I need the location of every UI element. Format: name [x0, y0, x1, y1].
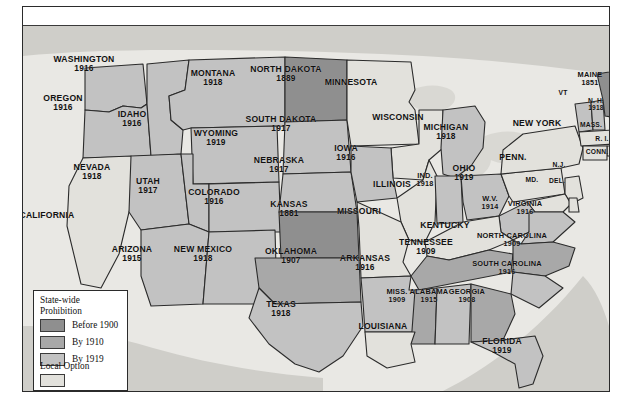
- state-year: 1919: [194, 138, 238, 147]
- state-label-conn: CONN.: [586, 149, 609, 156]
- state-year: 1909: [386, 295, 407, 302]
- state-name: DEL.: [549, 178, 565, 185]
- state-year: 1917: [246, 124, 317, 133]
- map-canvas: .st{stroke:#2b2b2b;stroke-width:1.1;stro…: [23, 26, 609, 391]
- state-year: 1916: [508, 207, 542, 214]
- state-year: 1851: [578, 78, 603, 85]
- state-label-n-h: N. H.1918: [588, 98, 604, 112]
- state-label-utah: UTAH1917: [136, 177, 160, 194]
- state-label-tennessee: TENNESSEE1909: [399, 238, 453, 255]
- state-label-kansas: KANSAS1881: [270, 200, 308, 217]
- state-year: 1915: [410, 295, 449, 302]
- state-label-vt: VT: [559, 90, 568, 97]
- state-label-idaho: IDAHO1916: [118, 110, 147, 127]
- state-label-md: MD.: [526, 177, 539, 184]
- state-year: 1919: [453, 173, 476, 182]
- state-year: 1916: [188, 197, 240, 206]
- state-year: 1915: [112, 254, 153, 263]
- state-name: N.J.: [552, 162, 565, 169]
- state-label-north-dakota: NORTH DAKOTA1889: [250, 65, 321, 82]
- state-name: MISSOURI: [337, 207, 381, 216]
- state-label-alabama: ALABAMA1915: [410, 288, 449, 303]
- state-year: 1881: [270, 209, 308, 218]
- state-label-oklahoma: OKLAHOMA1907: [265, 247, 317, 264]
- state-label-north-carolina: NORTH CAROLINA1909: [477, 232, 547, 247]
- state-label-n-j: N.J.: [552, 162, 565, 169]
- state-label-ind: IND.1918: [417, 172, 434, 187]
- state-label-illinois: ILLINOIS: [373, 180, 411, 189]
- state-label-del: DEL.: [549, 178, 565, 185]
- state-delaware: [569, 198, 579, 212]
- state-minnesota: [347, 60, 419, 146]
- state-year: 1916: [472, 267, 542, 274]
- state-year: 1909: [477, 239, 547, 246]
- state-name: CALIFORNIA: [23, 211, 75, 220]
- state-name: MASS.: [580, 122, 602, 129]
- state-year: 1916: [118, 119, 147, 128]
- state-indiana: [435, 176, 463, 224]
- state-year: 1918: [588, 105, 604, 112]
- legend-title: State-wide Prohibition: [40, 295, 82, 316]
- state-name: MINNESOTA: [325, 78, 378, 87]
- state-label-missouri: MISSOURI: [337, 207, 381, 216]
- state-label-florida: FLORIDA1919: [482, 337, 522, 354]
- state-label-arizona: ARIZONA1915: [112, 245, 153, 262]
- state-label-penn: PENN.: [499, 153, 526, 162]
- caption-strip: [23, 7, 609, 26]
- state-year: 1916: [340, 263, 390, 272]
- state-year: 1914: [482, 202, 499, 209]
- state-year: 1917: [136, 186, 160, 195]
- state-name: NEW YORK: [513, 119, 562, 128]
- state-year: 1909: [399, 247, 453, 256]
- state-year: 1918: [266, 309, 296, 318]
- state-label-arkansas: ARKANSAS1916: [340, 254, 390, 271]
- state-year: 1917: [254, 165, 304, 174]
- state-label-south-carolina: SOUTH CAROLINA1916: [472, 260, 542, 275]
- state-label-new-york: NEW YORK: [513, 119, 562, 128]
- state-label-wyoming: WYOMING1919: [194, 129, 238, 146]
- state-label-washington: WASHINGTON1916: [53, 55, 114, 72]
- state-name: KENTUCKY: [420, 221, 469, 230]
- state-name: CONN.: [586, 149, 609, 156]
- state-label-iowa: IOWA1916: [334, 144, 358, 161]
- state-year: 1918: [423, 132, 468, 141]
- state-label-maine: MAINE1851: [578, 71, 603, 86]
- state-label-wisconsin: WISCONSIN: [372, 113, 423, 122]
- legend-title-line1: State-wide: [40, 295, 80, 305]
- state-year: 1916: [334, 153, 358, 162]
- state-name: LOUISIANA: [358, 322, 407, 331]
- state-label-new-mexico: NEW MEXICO1918: [174, 245, 232, 262]
- state-label-south-dakota: SOUTH DAKOTA1917: [246, 115, 317, 132]
- state-name: MD.: [526, 177, 539, 184]
- legend-title-line2: Prohibition: [40, 306, 82, 316]
- state-name: WISCONSIN: [372, 113, 423, 122]
- state-label-michigan: MICHIGAN1918: [423, 123, 468, 140]
- state-label-colorado: COLORADO1916: [188, 188, 240, 205]
- legend-label-local-option: Local Option: [40, 361, 89, 371]
- state-name: R. I.: [595, 136, 608, 143]
- state-label-r-i: R. I.: [595, 136, 608, 143]
- state-year: 1907: [265, 256, 317, 265]
- figure-page: .st{stroke:#2b2b2b;stroke-width:1.1;stro…: [0, 0, 632, 418]
- legend-swatch-before-1900: [40, 319, 65, 332]
- state-label-w-v: W.V.1914: [482, 195, 499, 210]
- state-year: 1908: [449, 295, 485, 302]
- state-label-nebraska: NEBRASKA1917: [254, 156, 304, 173]
- map-legend: State-wide Prohibition Before 1900 By 19…: [33, 290, 128, 391]
- state-label-virginia: VIRGINIA1916: [508, 200, 542, 215]
- state-label-ohio: OHIO1919: [453, 164, 476, 181]
- map-frame: .st{stroke:#2b2b2b;stroke-width:1.1;stro…: [22, 6, 610, 392]
- legend-swatch-by-1910: [40, 336, 65, 349]
- state-arizona: [141, 224, 209, 306]
- state-name: VT: [559, 90, 568, 97]
- state-label-california: CALIFORNIA: [23, 211, 75, 220]
- state-label-texas: TEXAS1918: [266, 300, 296, 317]
- state-label-nevada: NEVADA1918: [74, 163, 111, 180]
- state-label-minnesota: MINNESOTA: [325, 78, 378, 87]
- legend-label-by-1910: By 1910: [72, 337, 104, 347]
- state-year: 1918: [191, 78, 236, 87]
- state-label-mass: MASS.: [580, 122, 602, 129]
- state-label-kentucky: KENTUCKY: [420, 221, 469, 230]
- state-label-georgia: GEORGIA1908: [449, 288, 485, 303]
- state-name: PENN.: [499, 153, 526, 162]
